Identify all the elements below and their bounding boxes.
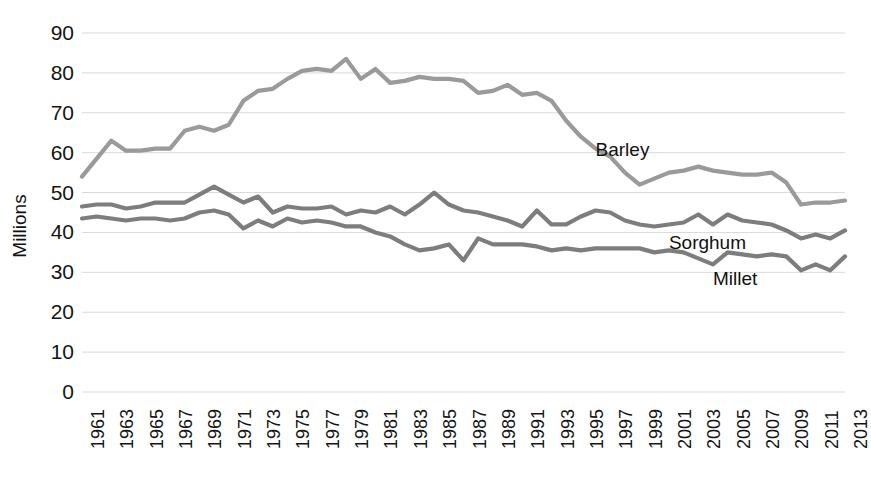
x-axis-tick-label: 1979 bbox=[353, 409, 371, 449]
x-axis-tick-label: 2003 bbox=[705, 409, 723, 449]
x-axis-tick-label: 2013 bbox=[852, 409, 870, 449]
x-axis-tick-label: 1981 bbox=[382, 409, 400, 449]
x-axis-tick-label: 2007 bbox=[764, 409, 782, 449]
x-axis-tick-label: 1977 bbox=[324, 409, 342, 449]
x-axis-tick-label: 1975 bbox=[294, 409, 312, 449]
x-axis-tick-label: 1987 bbox=[471, 409, 489, 449]
x-axis-tick-label: 1965 bbox=[148, 409, 166, 449]
x-axis-tick-label: 2001 bbox=[676, 409, 694, 449]
x-axis-tick-label: 1971 bbox=[236, 409, 254, 449]
x-axis-tick-label: 1983 bbox=[412, 409, 430, 449]
x-axis-tick-label: 1997 bbox=[617, 409, 635, 449]
x-axis-tick-label: 1985 bbox=[441, 409, 459, 449]
series-label-millet: Millet bbox=[713, 268, 757, 290]
x-axis-tick-label: 1973 bbox=[265, 409, 283, 449]
x-axis-tick-label: 1989 bbox=[500, 409, 518, 449]
series-label-sorghum: Sorghum bbox=[669, 232, 746, 254]
x-axis-tick-label: 1999 bbox=[647, 409, 665, 449]
x-axis-tick-label: 1995 bbox=[588, 409, 606, 449]
x-axis-tick-label: 1967 bbox=[177, 409, 195, 449]
x-axis-tick-label: 1961 bbox=[89, 409, 107, 449]
x-axis-tick-label: 1993 bbox=[559, 409, 577, 449]
series-line-barley bbox=[82, 59, 845, 205]
x-axis-tick-label: 2009 bbox=[793, 409, 811, 449]
x-axis-tick-label: 1963 bbox=[118, 409, 136, 449]
x-axis-tick-label: 2011 bbox=[823, 410, 841, 449]
x-axis-tick-label: 1969 bbox=[206, 409, 224, 449]
series-label-barley: Barley bbox=[596, 139, 650, 161]
x-axis-tick-label: 2005 bbox=[735, 409, 753, 449]
x-axis-tick-label: 1991 bbox=[529, 409, 547, 449]
